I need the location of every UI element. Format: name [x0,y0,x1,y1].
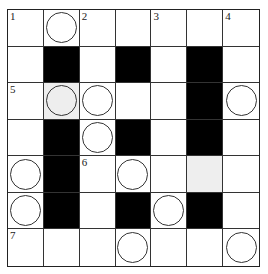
grid-cell[interactable] [80,229,116,266]
clue-number: 7 [10,229,16,241]
black-cell [187,193,223,230]
black-cell [187,47,223,84]
circle-marker-icon [82,122,113,153]
grid-cell[interactable] [151,156,187,193]
grid-cell[interactable] [223,83,259,120]
grid-cell[interactable] [223,120,259,157]
grid-cell[interactable] [116,156,152,193]
circle-marker-icon [82,85,113,116]
grid-cell[interactable]: 1 [8,10,44,47]
circle-marker-icon [226,85,257,116]
clue-number: 6 [82,156,88,168]
clue-number: 3 [153,10,159,22]
grid-cell[interactable] [80,193,116,230]
circle-marker-icon [46,85,77,116]
grid-cell[interactable] [8,156,44,193]
grid-cell[interactable]: 3 [151,10,187,47]
grid-cell[interactable] [151,120,187,157]
crossword-grid: 1234567 [7,9,260,267]
grid-cell[interactable] [8,193,44,230]
black-cell [116,120,152,157]
grid-cell[interactable]: 5 [8,83,44,120]
black-cell [187,83,223,120]
grid-cell[interactable] [151,83,187,120]
clue-number: 2 [82,10,88,22]
black-cell [116,47,152,84]
grid-cell[interactable] [116,229,152,266]
circle-marker-icon [117,232,148,263]
clue-number: 1 [10,10,16,22]
grid-cell[interactable] [8,47,44,84]
black-cell [116,193,152,230]
clue-number: 5 [10,83,16,95]
grid-cell[interactable] [44,10,80,47]
grid-cell[interactable] [80,83,116,120]
grid-cell[interactable] [223,47,259,84]
grid-cell[interactable]: 2 [80,10,116,47]
grid-cell[interactable] [223,229,259,266]
grid-cell[interactable] [116,10,152,47]
clue-number: 4 [225,10,231,22]
black-cell [187,120,223,157]
grid-cell[interactable]: 4 [223,10,259,47]
black-cell [44,47,80,84]
grid-cell[interactable]: 7 [8,229,44,266]
black-cell [44,193,80,230]
grid-cell[interactable] [151,229,187,266]
circle-marker-icon [117,159,148,190]
circle-marker-icon [46,12,77,43]
grid-cell[interactable] [187,156,223,193]
circle-marker-icon [10,195,41,226]
circle-marker-icon [226,232,257,263]
circle-marker-icon [153,195,184,226]
grid-cell[interactable] [44,229,80,266]
grid-cell[interactable] [223,193,259,230]
grid-cell[interactable] [151,47,187,84]
grid-cell[interactable]: 6 [80,156,116,193]
black-cell [44,120,80,157]
grid-cell[interactable] [80,47,116,84]
black-cell [44,156,80,193]
grid-cell[interactable] [8,120,44,157]
grid-cell[interactable] [80,120,116,157]
grid-cell[interactable] [151,193,187,230]
circle-marker-icon [10,159,41,190]
grid-cell[interactable] [187,229,223,266]
grid-cell[interactable] [116,83,152,120]
grid-cell[interactable] [187,10,223,47]
grid-cell[interactable] [44,83,80,120]
grid-cell[interactable] [223,156,259,193]
